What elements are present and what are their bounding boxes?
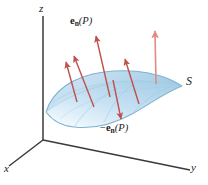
x-axis [9,140,43,166]
figure-canvas [0,0,208,185]
surface-S [46,71,182,128]
y-axis [43,140,190,170]
surface-label: S [186,75,192,87]
inward-normal-label-arg: (P) [115,122,128,133]
outward-normal-label-arg: (P) [79,15,92,26]
figure-oriented-surface: z x y S en(P) −en(P) [0,0,208,185]
x-axis-label: x [4,163,9,174]
inward-normal-label: −en(P) [100,123,128,135]
outward-normal-label: en(P) [70,16,92,28]
y-axis-label: y [191,162,196,173]
normal-arrow-5 [155,31,156,84]
z-axis-label: z [39,3,43,14]
